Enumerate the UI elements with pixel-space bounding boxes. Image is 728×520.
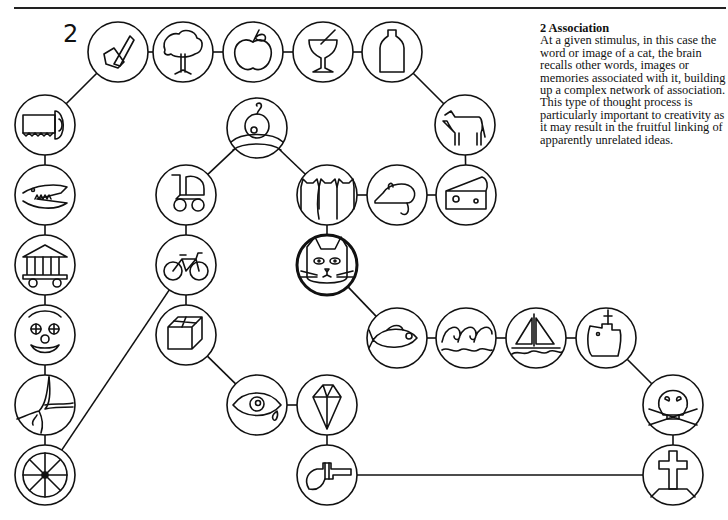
node-circle [435,95,495,155]
node-baby [227,98,287,158]
node-circle [367,165,427,225]
caption-body: At a given stimulus, in this case the wo… [540,34,728,146]
node-fish [367,308,427,368]
node-glass [293,22,353,82]
node-waves [436,308,496,368]
node-diamond [297,375,357,435]
edge-bottle-cow [413,73,444,104]
node-circle [15,95,75,155]
node-circle [156,305,216,365]
node-gun [297,445,357,505]
figure-caption: 2 Association At a given stimulus, in th… [540,22,728,146]
node-bicycle [156,235,216,295]
node-crack [15,375,75,435]
node-circle [223,22,283,82]
node-wheel [15,445,75,505]
edge-bicycle-wheel [62,290,170,450]
node-apple [223,22,283,82]
node-cat [297,235,357,295]
node-mouse [367,165,427,225]
node-circle [436,165,496,225]
edge-skull-ship [627,359,652,384]
node-saw [15,95,75,155]
node-temple [15,235,75,295]
node-circle [293,22,353,82]
node-cheese [436,165,496,225]
node-circle [436,308,496,368]
node-circle [297,165,357,225]
wheel-icon [23,453,67,497]
node-eye [227,375,287,435]
node-axe [88,22,148,82]
edge-axe-saw [66,73,97,104]
edge-baby-pram [208,149,235,175]
node-cats [297,165,357,225]
node-crocodile [15,165,75,225]
node-clown [15,305,75,365]
node-circle [88,22,148,82]
node-circle [362,22,422,82]
node-ship [576,308,636,368]
node-pram [156,165,216,225]
node-grave [643,445,703,505]
node-cow [435,95,495,155]
node-tree [153,22,213,82]
node-circle [297,235,357,295]
node-circle [576,308,636,368]
node-circle [367,308,427,368]
node-circle [15,235,75,295]
node-circle [643,375,703,435]
edge-fish-cat [348,287,376,317]
node-boat [506,308,566,368]
node-circle [156,235,216,295]
edge-cats-baby [279,149,306,175]
node-skull [643,375,703,435]
node-box [156,305,216,365]
edge-box-eye [207,356,235,384]
node-bottle [362,22,422,82]
